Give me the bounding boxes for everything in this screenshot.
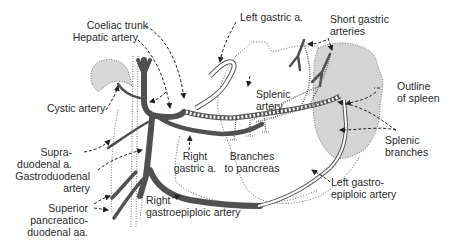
label-left-gastric: Left gastric a.	[240, 11, 303, 23]
label-coeliac-trunk: Coeliac trunk	[70, 19, 148, 31]
label-branches-pancreas-line1: Branches	[222, 150, 282, 162]
label-short-gastric-line1: Short gastric	[330, 13, 389, 25]
label-sup-pancreatico-line1: Superior	[10, 202, 88, 214]
label-left-gastroepiploic-line1: Left gastro-	[331, 176, 384, 188]
label-splenic-branches-line1: Splenic	[385, 134, 419, 146]
label-gastroduodenal-line2: artery	[8, 182, 90, 194]
duodenum-outline	[111, 110, 150, 220]
label-right-gastroepiploic-line2: gastroepiploic artery	[146, 206, 241, 218]
label-splenic-artery-line1: Splenic	[256, 88, 290, 100]
label-supraduodenal-line1: Supra-	[10, 146, 72, 158]
label-right-gastroepiploic-line1: Right	[146, 194, 171, 206]
label-outline-spleen-line1: Outline	[397, 80, 430, 92]
label-gastroduodenal-line1: Gastroduodenal	[8, 170, 90, 182]
label-left-gastroepiploic-line2: epiploic artery	[331, 188, 396, 200]
label-right-gastric-line1: Right	[170, 150, 220, 162]
label-right-gastric-line2: gastric a.	[170, 162, 220, 174]
label-splenic-artery-line2: artery	[256, 100, 283, 112]
label-sup-pancreatico-line3: duodenal aa.	[10, 226, 88, 238]
label-branches-pancreas-line2: to pancreas	[222, 162, 282, 174]
bile-duct	[136, 56, 138, 228]
label-outline-spleen-line2: of spleen	[397, 92, 440, 104]
gallbladder	[91, 59, 132, 92]
label-splenic-branches-line2: branches	[385, 146, 428, 158]
label-supraduodenal-line2: duodenal a.	[10, 158, 72, 170]
label-hepatic-artery: Hepatic artery	[60, 31, 138, 43]
label-short-gastric-line2: arteries	[330, 25, 365, 37]
label-cystic-artery: Cystic artery	[47, 102, 105, 114]
label-sup-pancreatico-line2: pancreatico-	[10, 214, 88, 226]
